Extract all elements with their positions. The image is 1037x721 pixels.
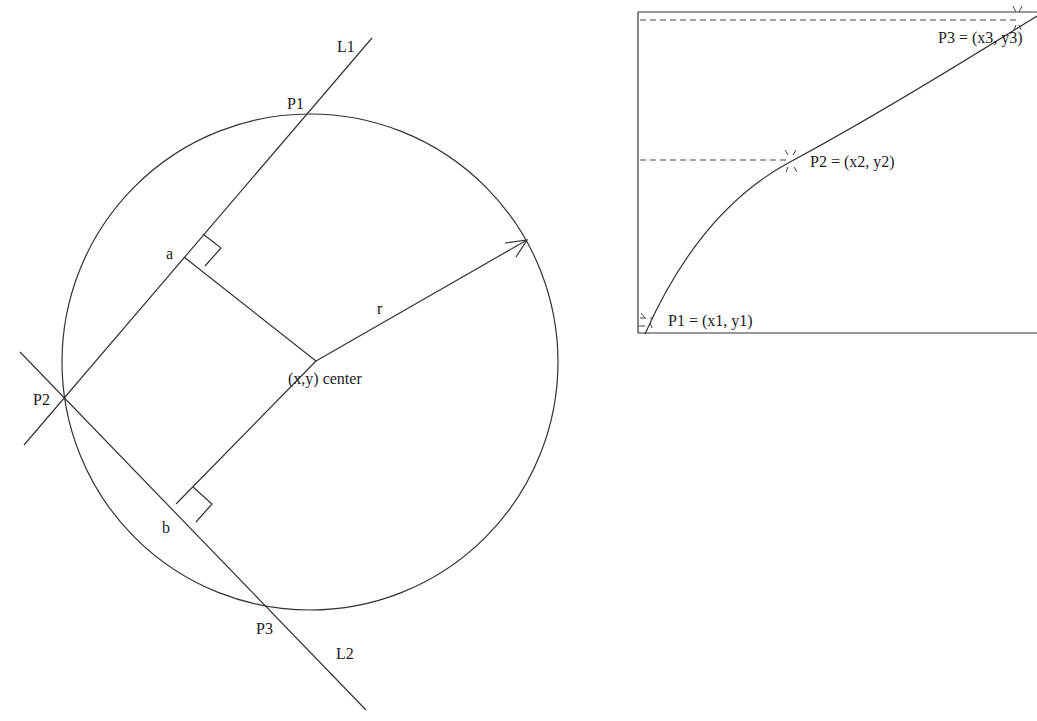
label-l1: L1 xyxy=(337,38,355,55)
label-p3: P3 xyxy=(256,620,273,637)
perpendicular-a xyxy=(184,257,316,361)
label-b: b xyxy=(162,519,170,536)
point-marker-p1 xyxy=(639,313,652,328)
radius-arrow xyxy=(316,240,527,361)
label-r: r xyxy=(377,300,383,317)
label-p2-coords: P2 = (x2, y2) xyxy=(810,153,895,171)
line-l2 xyxy=(20,352,366,710)
right-angle-marker-a xyxy=(203,234,221,266)
circle xyxy=(62,114,558,610)
arc-curve xyxy=(645,16,1037,334)
geometry-figure: L1 P1 a r (x,y) center P2 b P3 L2 xyxy=(0,0,1037,721)
right-angle-marker-b xyxy=(193,487,212,522)
label-center: (x,y) center xyxy=(288,370,362,388)
label-p1-coords: P1 = (x1, y1) xyxy=(668,312,753,330)
left-diagram: L1 P1 a r (x,y) center P2 b P3 L2 xyxy=(20,38,558,710)
label-p2: P2 xyxy=(33,391,50,408)
label-p1: P1 xyxy=(287,95,304,112)
right-diagram: P3 = (x3, y3) P2 = (x2, y2) P1 = (x1, y1… xyxy=(638,6,1037,334)
label-p3-coords: P3 = (x3, y3) xyxy=(938,29,1023,47)
label-l2: L2 xyxy=(336,645,354,662)
label-a: a xyxy=(166,245,173,262)
